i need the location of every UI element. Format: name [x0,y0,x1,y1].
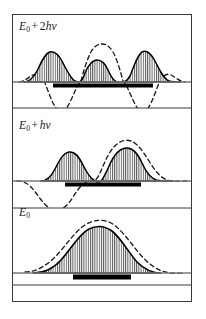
panel-mid-group [13,140,191,210]
probability-density-bot [33,227,161,273]
panel-label-top: E0+2hν [19,21,57,34]
panel-label-mid-operator: + [30,119,40,131]
figure-root: E0+2hν E0+hν E0 [0,0,206,319]
panel-label-bot: E0 [19,207,30,220]
panel-top-group [13,44,191,112]
level-bar-top [53,84,153,88]
probability-density-mid [41,148,173,182]
figure-frame [12,14,192,302]
panel-bot-group [13,220,191,279]
probability-density-top [23,51,181,82]
panel-label-mid-quantum: hν [40,119,51,131]
level-bar-mid [65,183,141,187]
wavefunction-plot [13,15,191,301]
level-bar-bot [73,275,131,280]
panel-label-mid: E0+hν [19,120,51,133]
panel-label-bot-subscript: 0 [26,211,30,220]
panel-label-top-operator: + [30,20,40,32]
panel-label-top-quantum: hν [46,20,57,32]
wavefunction-dashed-mid [17,140,187,210]
